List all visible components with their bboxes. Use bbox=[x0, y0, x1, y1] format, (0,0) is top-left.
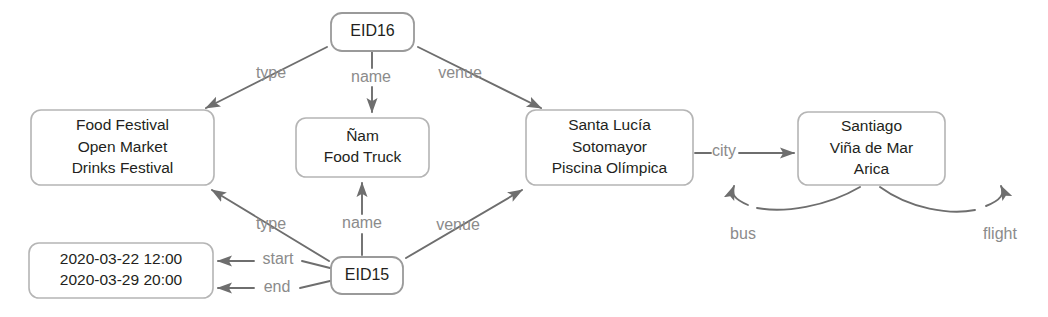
edge-cities-bus-loop-label: bus bbox=[730, 225, 756, 242]
value-node-cities[interactable]: SantiagoViña de MarArica bbox=[798, 112, 945, 185]
edge-eid16-name-label: name bbox=[351, 68, 391, 85]
value-node-venues-line: Santa Lucía bbox=[568, 116, 651, 133]
entity-node-eid16-line: EID16 bbox=[350, 22, 395, 39]
value-node-timestamps[interactable]: 2020-03-22 12:002020-03-29 20:00 bbox=[29, 243, 213, 298]
edge-eid15-start-label: start bbox=[262, 250, 294, 267]
value-node-event-names[interactable]: ÑamFood Truck bbox=[296, 118, 429, 177]
value-node-timestamps-line: 2020-03-29 20:00 bbox=[60, 271, 183, 288]
entity-node-eid15[interactable]: EID15 bbox=[331, 257, 403, 294]
value-node-event-names-line: Food Truck bbox=[324, 148, 402, 165]
edge-eid15-end bbox=[300, 281, 330, 288]
value-node-cities-line: Arica bbox=[854, 160, 890, 177]
value-node-event-types-line: Food Festival bbox=[76, 116, 169, 133]
value-node-event-types-line: Open Market bbox=[78, 138, 168, 155]
edge-eid15-end-label: end bbox=[264, 278, 291, 295]
edge-venues-city-label: city bbox=[712, 142, 736, 159]
value-node-cities-line: Santiago bbox=[841, 117, 902, 134]
edge-cities-bus-loop bbox=[757, 187, 860, 210]
value-node-event-types[interactable]: Food FestivalOpen MarketDrinks Festival bbox=[31, 110, 214, 185]
edge-cities-bus-loop bbox=[733, 186, 748, 205]
edge-eid15-start bbox=[302, 261, 330, 268]
value-node-timestamps-line: 2020-03-22 12:00 bbox=[60, 250, 183, 267]
value-node-cities-line: Viña de Mar bbox=[830, 139, 913, 156]
knowledge-graph-diagram: EID16Food FestivalOpen MarketDrinks Fest… bbox=[0, 0, 1048, 317]
edge-eid15-type-label: type bbox=[256, 215, 286, 232]
edge-cities-flight-loop-label: flight bbox=[983, 225, 1017, 242]
value-node-venues-line: Sotomayor bbox=[572, 138, 647, 155]
edge-cities-flight-loop bbox=[986, 186, 1002, 206]
edge-eid16-type-label: type bbox=[256, 64, 286, 81]
value-node-event-names-line: Ñam bbox=[346, 127, 379, 144]
value-node-event-types-line: Drinks Festival bbox=[72, 159, 174, 176]
edge-eid16-venue-label: venue bbox=[438, 64, 482, 81]
edge-cities-flight-loop bbox=[880, 187, 975, 212]
graph-canvas: EID16Food FestivalOpen MarketDrinks Fest… bbox=[0, 0, 1048, 317]
value-node-venues-line: Piscina Olímpica bbox=[552, 159, 668, 176]
entity-node-eid15-line: EID15 bbox=[345, 266, 390, 283]
entity-node-eid16[interactable]: EID16 bbox=[331, 13, 414, 51]
edge-eid15-venue-label: venue bbox=[436, 216, 480, 233]
edge-eid15-name-label: name bbox=[342, 214, 382, 231]
value-node-venues[interactable]: Santa LucíaSotomayorPiscina Olímpica bbox=[526, 110, 693, 185]
nodes-layer: EID16Food FestivalOpen MarketDrinks Fest… bbox=[29, 13, 945, 298]
